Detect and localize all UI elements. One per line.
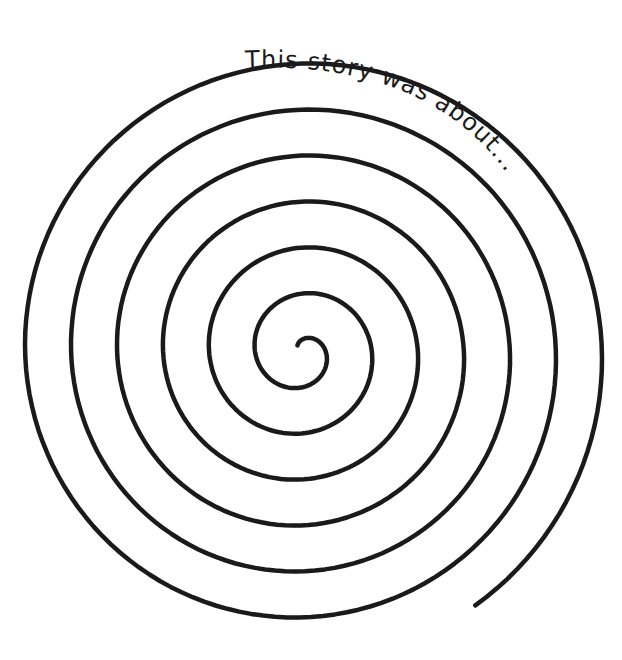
spiral-line — [25, 64, 602, 618]
spiral-worksheet: This story was about... — [0, 0, 622, 660]
